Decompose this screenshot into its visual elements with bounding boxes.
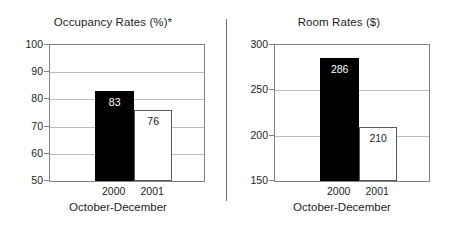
y-axis-room-rates: 150200250300 (234, 44, 268, 182)
bar-2001: 76 (134, 110, 173, 181)
x-axis-caption-occupancy: October-December (20, 201, 216, 213)
plot-area-room-rates: 286210 (274, 44, 430, 182)
gridline (50, 72, 204, 73)
y-axis-tick-label: 100 (25, 38, 43, 50)
bar-value-label: 76 (135, 115, 172, 127)
chart-title-room-rates: Room Rates ($) (226, 16, 452, 28)
category-labels-occupancy: 20002001 (49, 185, 205, 199)
bar-value-label: 210 (360, 132, 397, 144)
y-axis-tick-label: 50 (31, 174, 43, 186)
chart-panel-room-rates: Room Rates ($) 150200250300 286210 20002… (226, 0, 452, 229)
y-axis-tick-label: 250 (250, 83, 268, 95)
dual-bar-chart-figure: Occupancy Rates (%)* 5060708090100 8376 … (0, 0, 453, 229)
bar-value-label: 83 (96, 96, 133, 108)
y-axis-tick-label: 200 (250, 129, 268, 141)
category-label: 2001 (358, 185, 397, 197)
y-axis-tick-label: 150 (250, 174, 268, 186)
chart-panel-occupancy: Occupancy Rates (%)* 5060708090100 8376 … (0, 0, 226, 229)
y-axis-tick-label: 70 (31, 120, 43, 132)
bar-2001: 210 (359, 127, 398, 181)
y-axis-tick-label: 60 (31, 147, 43, 159)
bar-2000: 286 (320, 58, 359, 181)
category-labels-room-rates: 20002001 (274, 185, 430, 199)
bar-value-label: 286 (321, 63, 358, 75)
category-label: 2001 (133, 185, 172, 197)
plot-area-occupancy: 8376 (49, 44, 205, 182)
y-axis-tick-label: 90 (31, 65, 43, 77)
chart-title-occupancy: Occupancy Rates (%)* (0, 16, 226, 28)
y-axis-tick-label: 80 (31, 92, 43, 104)
y-axis-tick-label: 300 (250, 38, 268, 50)
bar-2000: 83 (95, 91, 134, 181)
y-axis-occupancy: 5060708090100 (11, 44, 43, 182)
category-label: 2000 (319, 185, 358, 197)
x-axis-caption-room-rates: October-December (244, 201, 440, 213)
category-label: 2000 (94, 185, 133, 197)
